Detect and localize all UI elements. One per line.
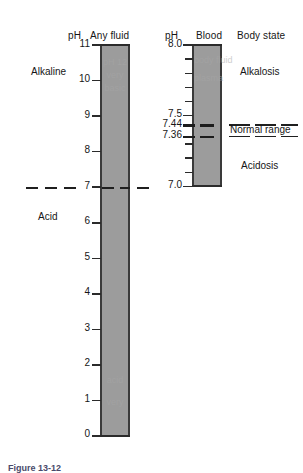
ghost-text-left-mid: basic: [102, 83, 128, 93]
ghost-text-left-low2: very: [102, 397, 128, 407]
tick-blood-minor-7-2: [185, 157, 193, 158]
header-body-state: Body state: [237, 30, 285, 41]
tick-label-left-11: 11: [62, 38, 90, 49]
any-fluid-top-cap: [100, 44, 130, 46]
tick-blood-7-0: [183, 186, 193, 188]
tick-label-left-2: 2: [62, 357, 90, 368]
tick-left-10: [92, 80, 101, 82]
tick-label-left-10: 10: [62, 73, 90, 84]
tick-left-8: [92, 151, 101, 153]
tick-left-2: [92, 364, 101, 366]
tick-blood-minor-7-1: [185, 172, 193, 173]
tick-blood-minor-7-7: [185, 87, 193, 88]
any-fluid-bottom-cap: [100, 435, 130, 437]
any-fluid-column: pH 12 very basic acid very: [100, 45, 130, 436]
figure-caption: Figure 13-12: [8, 463, 61, 473]
tick-label-left-6: 6: [62, 215, 90, 226]
tick-label-left-8: 8: [62, 144, 90, 155]
ghost-text-right-top: body fluid: [194, 55, 220, 65]
tick-blood-minor-7-3: [185, 143, 193, 144]
label-acid: Acid: [38, 211, 57, 222]
normal-range-rule-bottom-1: [229, 136, 250, 137]
blood-column: body fluid plasma: [192, 45, 222, 186]
ph7-dash-6: [137, 187, 149, 189]
ghost-text-left-top: pH 12: [102, 57, 128, 67]
label-alkalosis: Alkalosis: [240, 66, 279, 77]
ghost-text-left-low: acid: [102, 375, 128, 385]
ph7-dash-4: [102, 187, 114, 189]
normal-high-bar-inner: [200, 124, 214, 127]
header-any-fluid: Any fluid: [90, 30, 129, 41]
ghost-text-left-top2: very: [102, 70, 128, 80]
label-alkaline: Alkaline: [31, 66, 66, 77]
tick-left-4: [92, 293, 101, 295]
tick-label-left-1: 1: [62, 393, 90, 404]
tick-blood-minor-7-9: [185, 58, 193, 59]
normal-range-rule-bottom-2: [255, 136, 276, 137]
tick-label-left-0: 0: [62, 428, 90, 439]
normal-high-tick: [183, 124, 195, 127]
tick-label-normal-low: 7.36: [146, 129, 182, 140]
normal-low-bar-inner: [200, 136, 214, 139]
tick-label-normal-high: 7.44: [146, 118, 182, 129]
header-blood: Blood: [196, 30, 222, 41]
tick-blood-minor-7-8: [185, 73, 193, 74]
blood-top-cap: [192, 44, 222, 46]
tick-label-blood-7-0: 7.0: [152, 179, 182, 190]
tick-label-left-4: 4: [62, 286, 90, 297]
normal-range-label: Normal range: [230, 124, 291, 135]
ghost-text-right-mid: plasma: [194, 73, 220, 83]
tick-label-left-3: 3: [62, 322, 90, 333]
tick-left-5: [92, 258, 101, 260]
tick-label-left-9: 9: [62, 109, 90, 120]
label-acidosis: Acidosis: [241, 160, 278, 171]
blood-bottom-cap: [192, 185, 222, 187]
ph7-dash-2: [45, 187, 57, 189]
tick-blood-8-0: [183, 44, 193, 46]
tick-left-7: [92, 186, 101, 188]
tick-left-0: [92, 435, 101, 437]
tick-left-11: [92, 44, 101, 46]
ph7-dash-5: [120, 187, 130, 189]
tick-blood-minor-7-6: [185, 101, 193, 102]
ph7-dash-3: [64, 187, 76, 189]
normal-low-tick: [183, 136, 195, 139]
ph7-dash-1: [26, 187, 38, 189]
tick-blood-7-5: [183, 115, 193, 117]
tick-left-3: [92, 329, 101, 331]
tick-label-blood-8-0: 8.0: [152, 38, 182, 49]
tick-label-left-5: 5: [62, 251, 90, 262]
tick-left-9: [92, 115, 101, 117]
tick-left-1: [92, 400, 101, 402]
normal-range-rule-bottom-3: [281, 136, 298, 137]
tick-left-6: [92, 222, 101, 224]
